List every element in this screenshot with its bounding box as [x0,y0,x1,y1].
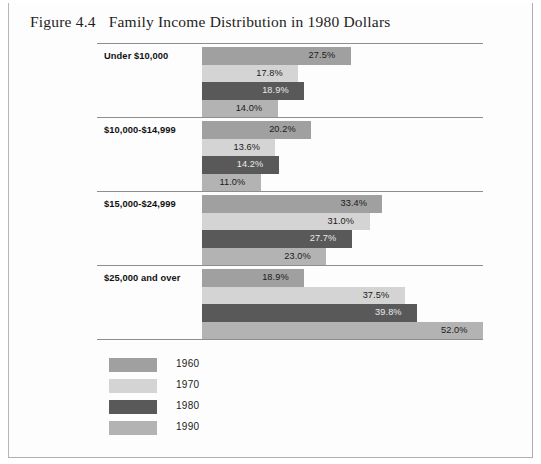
bar-row: 11.0% [202,174,483,192]
bar-row: 17.8% [202,65,483,83]
bar-value-label: 14.0% [236,103,263,113]
bar-value-label: 52.0% [441,325,468,335]
bar-row: 33.4% [202,195,483,213]
bar-group: $15,000-$24,99933.4%31.0%27.7%23.0% [97,191,483,265]
bar-value-label: 20.2% [269,124,296,134]
bar-group-bars: 33.4%31.0%27.7%23.0% [202,195,483,265]
legend-label: 1980 [176,400,199,411]
figure-number: Figure 4.4 [30,13,96,30]
bar-group: $25,000 and over18.9%37.5%39.8%52.0% [97,265,483,340]
bar-row: 27.7% [202,230,483,248]
bar-value-label: 31.0% [328,216,355,226]
bar-value-label: 23.0% [284,251,311,261]
bar-row: 37.5% [202,287,483,305]
bar-value-label: 17.8% [256,68,283,78]
bar-value-label: 39.8% [375,307,402,317]
bar-value-label: 14.2% [237,159,264,169]
legend-label: 1960 [176,358,199,369]
legend-label: 1990 [176,421,199,432]
bar-row: 14.0% [202,100,483,118]
legend-item: 1960 [109,358,309,379]
bar-value-label: 13.6% [233,142,260,152]
bar-value-label: 33.4% [340,198,367,208]
bar-value-label: 18.9% [262,272,289,282]
bar-row: 13.6% [202,139,483,157]
bar-group: Under $10,00027.5%17.8%18.9%14.0% [97,43,483,117]
category-label: $15,000-$24,999 [104,199,176,209]
bar-chart-plot-area: Under $10,00027.5%17.8%18.9%14.0%$10,000… [97,43,483,341]
legend-swatch-1990 [109,421,157,435]
legend-swatch-1980 [109,400,157,414]
bar-row: 27.5% [202,47,483,65]
figure-title: Figure 4.4Family Income Distribution in … [30,13,391,31]
chart-legend: 1960197019801990 [109,358,309,442]
bar-row: 23.0% [202,248,483,266]
bar-value-label: 18.9% [262,85,289,95]
bar-row: 39.8% [202,304,483,322]
bar-row: 20.2% [202,121,483,139]
legend-item: 1980 [109,400,309,421]
bar-row: 31.0% [202,213,483,231]
legend-item: 1970 [109,379,309,400]
bar-row: 14.2% [202,156,483,174]
category-label: $10,000-$14,999 [104,125,176,135]
figure-title-text: Family Income Distribution in 1980 Dolla… [109,13,391,30]
bar-value-label: 27.5% [309,50,336,60]
bar-group-bars: 18.9%37.5%39.8%52.0% [202,269,483,339]
legend-swatch-1970 [109,379,157,393]
legend-swatch-1960 [109,358,157,372]
bar-group: $10,000-$14,99920.2%13.6%14.2%11.0% [97,117,483,191]
bar-value-label: 27.7% [310,233,337,243]
bar-value-label: 11.0% [219,177,245,187]
bar-group-bars: 20.2%13.6%14.2%11.0% [202,121,483,191]
bar-1970-0 [202,65,298,83]
bar-value-label: 37.5% [363,290,390,300]
figure-frame: Figure 4.4Family Income Distribution in … [8,3,533,458]
bar-1960-3 [202,269,304,287]
category-label: Under $10,000 [104,51,168,61]
legend-item: 1990 [109,421,309,442]
bar-row: 18.9% [202,269,483,287]
bar-group-bars: 27.5%17.8%18.9%14.0% [202,47,483,117]
bar-1980-0 [202,82,304,100]
legend-label: 1970 [176,379,199,390]
bar-row: 18.9% [202,82,483,100]
category-label: $25,000 and over [104,273,181,283]
bar-row: 52.0% [202,322,483,340]
